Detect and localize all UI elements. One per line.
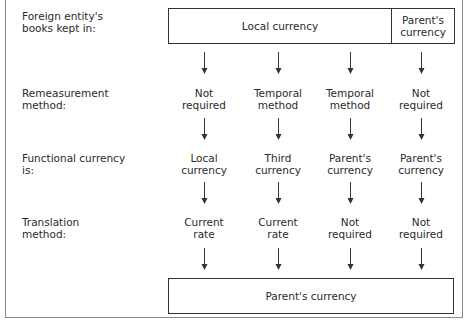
row-label-functional-currency: Functional currency is:	[22, 152, 125, 176]
remeasurement-cell: Temporal method	[315, 87, 385, 111]
arrow-down-icon	[200, 182, 209, 204]
parents-currency-label: Parent's currency	[392, 14, 454, 38]
arrow-down-icon	[417, 52, 426, 74]
row-label-translation-method: Translation method:	[22, 216, 79, 240]
arrow-down-icon	[346, 248, 355, 270]
local-currency-label: Local currency	[169, 20, 391, 32]
functional-currency-cell: Parent's currency	[386, 152, 456, 176]
remeasurement-cell: Not required	[386, 87, 456, 111]
functional-currency-cell: Local currency	[169, 152, 239, 176]
arrow-down-icon	[346, 118, 355, 140]
arrow-down-icon	[200, 52, 209, 74]
arrow-down-icon	[417, 248, 426, 270]
row-label-remeasurement-method: Remeasurement method:	[22, 87, 109, 111]
books-kept-in-box: Local currency Parent's currency	[168, 8, 455, 44]
arrow-down-icon	[346, 182, 355, 204]
arrow-down-icon	[417, 118, 426, 140]
translation-method-cell: Not required	[386, 216, 456, 240]
translation-method-cell: Not required	[315, 216, 385, 240]
translation-method-cell: Current rate	[169, 216, 239, 240]
arrow-down-icon	[274, 118, 283, 140]
parents-currency-result-label: Parent's currency	[265, 290, 356, 302]
arrow-down-icon	[274, 52, 283, 74]
arrow-down-icon	[346, 52, 355, 74]
arrow-down-icon	[200, 248, 209, 270]
remeasurement-cell: Not required	[169, 87, 239, 111]
row-label-books-kept-in: Foreign entity's books kept in:	[22, 10, 103, 34]
arrow-down-icon	[200, 118, 209, 140]
remeasurement-cell: Temporal method	[243, 87, 313, 111]
arrow-down-icon	[417, 182, 426, 204]
arrow-down-icon	[274, 182, 283, 204]
functional-currency-cell: Third currency	[243, 152, 313, 176]
arrow-down-icon	[274, 248, 283, 270]
parents-currency-box: Parent's currency	[168, 278, 454, 314]
functional-currency-cell: Parent's currency	[315, 152, 385, 176]
translation-method-cell: Current rate	[243, 216, 313, 240]
